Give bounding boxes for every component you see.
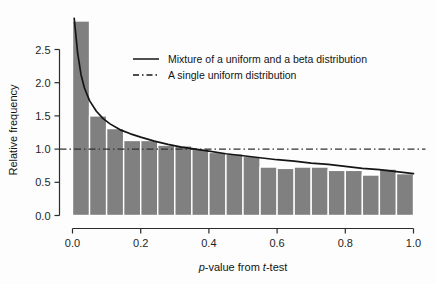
- histogram-bar: [124, 140, 141, 215]
- histogram-bar: [277, 168, 294, 215]
- legend-label: Mixture of a uniform and a beta distribu…: [168, 53, 367, 65]
- chart-figure: 0.00.51.01.52.02.5 0.00.20.40.60.81.0 Mi…: [0, 0, 436, 284]
- histogram-bar: [243, 156, 260, 215]
- x-axis-tick-label: 0.6: [269, 237, 284, 249]
- histogram-bar: [294, 167, 311, 215]
- histogram-bar: [328, 170, 345, 215]
- histogram-bar: [107, 129, 124, 216]
- histogram-bar: [362, 175, 379, 216]
- y-axis-title: Relative frequency: [7, 84, 19, 176]
- histogram-bar: [379, 169, 396, 215]
- y-axis-tick-label: 0.0: [35, 210, 50, 222]
- histogram-bar: [209, 152, 226, 215]
- histogram-bar: [175, 146, 192, 216]
- histogram-bar: [396, 174, 413, 216]
- histogram-bar: [345, 170, 362, 215]
- y-axis-tick-label: 2.5: [35, 44, 50, 56]
- y-axis-tick-label: 1.5: [35, 110, 50, 122]
- x-axis-tick-label: 0.2: [133, 237, 148, 249]
- x-axis-tick-label: 1.0: [406, 237, 421, 249]
- histogram-bar: [73, 21, 90, 216]
- x-axis-title: p-value from t-test: [198, 261, 288, 273]
- y-axis-tick-label: 2.0: [35, 77, 50, 89]
- legend-label: A single uniform distribution: [168, 69, 297, 81]
- x-axis-tick-label: 0.8: [338, 237, 353, 249]
- histogram-bar: [90, 116, 107, 216]
- histogram-bar: [158, 145, 175, 215]
- histogram-bar: [141, 140, 158, 215]
- histogram-bar: [311, 167, 328, 215]
- histogram-bar: [226, 154, 243, 216]
- histogram-chart: 0.00.51.01.52.02.5 0.00.20.40.60.81.0 Mi…: [0, 0, 436, 284]
- histogram-bar: [260, 167, 277, 215]
- histogram-bar: [192, 149, 209, 215]
- x-axis-tick-label: 0.0: [65, 237, 80, 249]
- y-axis-tick-label: 0.5: [35, 176, 50, 188]
- y-axis-tick-label: 1.0: [35, 143, 50, 155]
- x-axis-tick-label: 0.4: [201, 237, 216, 249]
